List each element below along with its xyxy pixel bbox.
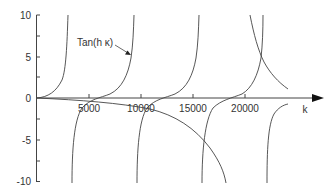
y-axis: 10 5 0 -5 -10	[17, 10, 40, 187]
y-tick-label: 0	[25, 93, 31, 104]
annotation-label: Tan(h κ)	[77, 37, 113, 48]
tan-branch-5	[267, 104, 288, 183]
y-tick-label: -5	[22, 135, 31, 146]
annotation: Tan(h κ)	[77, 37, 131, 55]
tan-branch-1	[37, 15, 68, 98]
chart: 10 5 0 -5 -10 5000 10000 15000 20000 k	[0, 0, 336, 193]
y-tick-label: -10	[17, 176, 32, 187]
tan-branch-3	[137, 15, 199, 183]
x-axis-label: k	[303, 104, 309, 115]
plot-area	[37, 15, 288, 183]
tan-branch-4	[202, 15, 263, 183]
x-tick-label: 20000	[231, 103, 259, 114]
y-tick-label: 5	[25, 52, 31, 63]
annotation-arrow-icon	[125, 51, 131, 56]
x-tick-label: 15000	[179, 103, 207, 114]
x-axis-arrow-icon	[312, 94, 324, 102]
annotation-leader	[115, 45, 128, 53]
y-tick-label: 10	[20, 10, 32, 21]
